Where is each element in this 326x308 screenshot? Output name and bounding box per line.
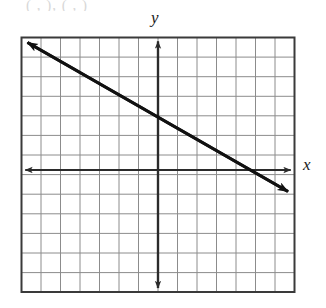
coordinate-plane-figure: ( , ), ( , ) [0,0,326,308]
coordinate-pairs-header-text: ( , ), ( , ) [26,0,156,11]
y-axis-label: y [151,8,159,28]
x-axis-label: x [303,155,311,175]
graph-canvas [0,0,326,308]
